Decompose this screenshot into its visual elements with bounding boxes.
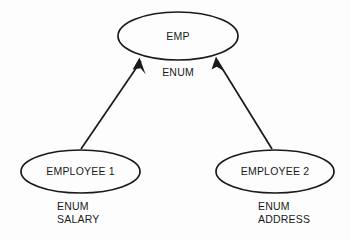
er-diagram-canvas: EMP ENUM EMPLOYEE 1 ENUMSALARY EMPLOYEE … (0, 0, 351, 240)
node-attributes-employee1: ENUMSALARY (57, 200, 99, 225)
node-label-emp: EMP (118, 30, 238, 42)
node-label-employee1: EMPLOYEE 1 (21, 165, 140, 177)
node-attributes-employee2: ENUMADDRESS (258, 200, 310, 225)
node-label-employee2: EMPLOYEE 2 (216, 165, 334, 177)
node-attributes-emp: ENUM (118, 66, 238, 79)
